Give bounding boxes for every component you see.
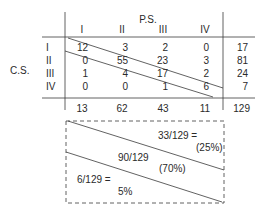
table-cell: 23 — [150, 55, 168, 67]
col-total: 43 — [153, 103, 173, 115]
table-cell: 1 — [150, 81, 168, 93]
row-header: II — [46, 55, 52, 67]
table-cell: 0 — [191, 42, 209, 54]
table-cell: 1 — [70, 68, 88, 80]
table-cell: 17 — [150, 68, 168, 80]
table-cell: 55 — [110, 55, 128, 67]
table-cell: 4 — [110, 68, 128, 80]
table-cell: 0 — [70, 55, 88, 67]
col-header: II — [112, 24, 132, 36]
table-cell: 2 — [191, 68, 209, 80]
upper-percent: (25%) — [196, 142, 223, 154]
lower-percent: 5% — [118, 186, 132, 198]
grand-total: 129 — [228, 103, 250, 115]
lower-fraction: 6/129 = — [77, 174, 111, 186]
row-header: I — [46, 42, 49, 54]
diagram-lines — [0, 0, 265, 214]
col-header: III — [151, 24, 175, 36]
upper-fraction: 33/129 = — [158, 130, 197, 142]
table-cell: 0 — [70, 81, 88, 93]
row-total: 24 — [228, 68, 248, 80]
row-group-label: C.S. — [10, 65, 29, 77]
col-total: 13 — [72, 103, 92, 115]
col-total: 62 — [112, 103, 132, 115]
table-cell: 3 — [110, 42, 128, 54]
row-total: 17 — [228, 42, 248, 54]
table-cell: 6 — [191, 81, 209, 93]
table-cell: 3 — [191, 55, 209, 67]
middle-fraction: 90/129 — [118, 152, 149, 164]
row-header: IV — [46, 81, 55, 93]
row-total: 81 — [228, 55, 248, 67]
table-cell: 12 — [70, 42, 88, 54]
row-header: III — [46, 68, 54, 80]
col-header: IV — [193, 24, 217, 36]
middle-percent: (70%) — [159, 163, 186, 175]
table-cell: 2 — [150, 42, 168, 54]
col-header: I — [72, 24, 92, 36]
col-total: 11 — [195, 103, 215, 115]
row-total: 7 — [228, 81, 248, 93]
table-cell: 0 — [110, 81, 128, 93]
